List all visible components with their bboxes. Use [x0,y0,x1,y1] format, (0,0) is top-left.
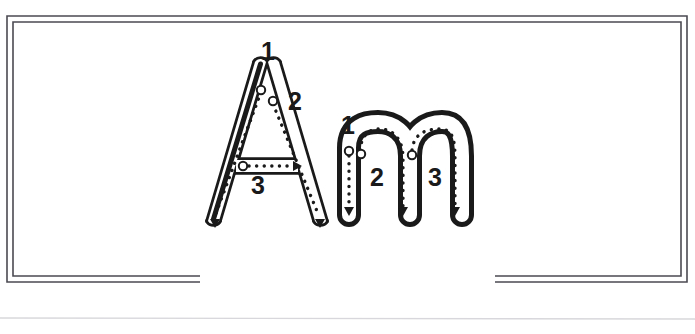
worksheet-page: 1 2 3 [0,0,695,334]
stroke-number-m-1: 1 [341,111,355,139]
stroke-number-a-1: 1 [261,37,275,65]
start-circle-stroke-1 [257,86,265,94]
stroke-number-m-3: 3 [428,163,442,191]
letter-m-group: 1 2 3 [341,111,462,216]
start-circle-m-2 [357,150,365,158]
stroke-number-a-3: 3 [251,171,265,199]
start-circle-stroke-3 [239,162,247,170]
stroke-number-m-2: 2 [370,163,384,191]
start-circle-m-3 [408,151,416,159]
start-circle-stroke-2 [269,97,277,105]
letter-a-outline [208,59,326,224]
stroke-number-a-2: 2 [288,87,302,115]
letter-a-group: 1 2 3 [208,37,326,228]
worksheet-canvas: 1 2 3 [0,0,695,334]
page-bottom-rule [0,318,695,319]
start-circle-m-1 [345,147,353,155]
